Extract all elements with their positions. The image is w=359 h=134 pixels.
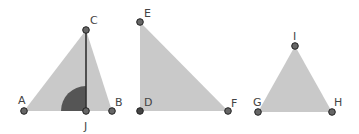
triangle-def: D F E xyxy=(137,7,238,114)
triangle-abc: A B C J xyxy=(18,14,123,133)
point-g[interactable] xyxy=(255,109,262,116)
triangles-figure: A B C J D F E G H I xyxy=(0,0,359,134)
triangle-def-fill xyxy=(140,22,228,111)
geometry-canvas: A B C J D F E G H I xyxy=(0,0,359,134)
label-j: J xyxy=(83,120,87,133)
point-e[interactable] xyxy=(137,19,144,26)
label-i: I xyxy=(293,30,296,43)
label-d: D xyxy=(144,96,152,109)
label-c: C xyxy=(90,14,98,27)
point-i[interactable] xyxy=(292,43,299,50)
label-h: H xyxy=(334,96,342,109)
label-e: E xyxy=(144,7,151,20)
point-j[interactable] xyxy=(83,108,90,115)
point-h[interactable] xyxy=(329,109,336,116)
point-c[interactable] xyxy=(83,27,90,34)
point-a[interactable] xyxy=(21,108,28,115)
label-g: G xyxy=(253,96,262,109)
point-d[interactable] xyxy=(137,108,144,115)
label-a: A xyxy=(18,94,26,107)
triangle-ghi: G H I xyxy=(253,30,342,115)
label-b: B xyxy=(115,96,123,109)
triangle-ghi-fill xyxy=(258,46,332,112)
label-f: F xyxy=(231,97,237,110)
